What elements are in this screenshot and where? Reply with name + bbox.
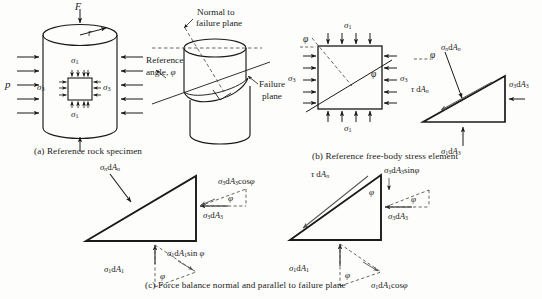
label-b-phi-inside: φ — [371, 70, 376, 80]
label-cr-tau-dAn: τ dAn — [311, 170, 329, 179]
label-axial-load-F: F — [75, 2, 81, 12]
panel-a-pressure-arrows-right — [121, 57, 143, 113]
label-cr-sigma1-dA1: σ1dA1 — [289, 264, 309, 273]
label-failure-plane-line2: plane — [262, 92, 282, 101]
label-cr-phi-bottom: φ — [345, 271, 350, 280]
label-a-sigma1-bottom: σ1 — [71, 110, 79, 119]
caption-a: (a) Reference rock specimen — [34, 146, 142, 156]
panel-b-triangle-arrows — [441, 52, 525, 146]
panel-c-left-dashed — [155, 189, 246, 287]
label-cl-sigma3-dA3: σ3dA3 — [203, 211, 223, 220]
label-b-sigma3-right: σ3 — [400, 74, 408, 83]
label-a-sigma3-left: σ3 — [37, 83, 45, 92]
figure-root: F r p σ1 σ1 σ3 σ3 Normal to failure plan… — [0, 0, 542, 299]
panel-a-cylinder — [43, 9, 117, 152]
panel-a-normal-line — [185, 28, 224, 92]
label-b-sigma3-left: σ3 — [288, 74, 296, 83]
label-cr-sigma1-dA1-cos: σ1dA1cosφ — [371, 281, 408, 290]
label-normal-to-failure-plane-line2: failure plane — [196, 19, 242, 28]
panel-c-right-dashed-arrowheads — [363, 178, 389, 271]
label-b-tri-sigma3-dA3: σ3dA3 — [509, 80, 529, 90]
panel-b-sigma1-bottom-arrows — [328, 111, 370, 122]
label-cl-sigma1-dA1: σ1dA1 — [104, 265, 124, 274]
label-cl-sigma1-dA1-sin: σ1dA1sin φ — [167, 249, 204, 258]
label-b-tri-phi: φ — [430, 51, 435, 61]
panel-c-left-triangle — [86, 176, 196, 241]
label-reference-angle-line1: Reference — [146, 56, 183, 65]
label-a-sigma3-right: σ3 — [103, 83, 111, 92]
label-cl-sigma-n-dAn: σndAn — [100, 163, 120, 172]
label-b-tri-tau-dAn: τ dAn — [411, 85, 429, 95]
panel-b-sigma3-right-arrows — [384, 56, 397, 103]
panel-c-right-triangle — [290, 175, 381, 240]
panel-a-element-arrows — [59, 70, 101, 108]
label-cr-phi-vertical: φ — [369, 188, 374, 197]
label-cr-sigma3-dA3: σ3dA3 — [388, 212, 408, 221]
label-cr-phi-right: φ — [411, 195, 416, 204]
label-b-phi-topleft: φ — [303, 35, 308, 45]
panel-b-sigma1-top-arrows — [328, 33, 370, 44]
label-a-sigma1-top: σ1 — [71, 56, 79, 65]
panel-a-failed-cylinder — [184, 39, 250, 144]
panel-a-stress-element — [68, 78, 92, 100]
label-b-sigma1-bottom: σ1 — [344, 124, 352, 133]
label-reference-angle-line2: angle, φ — [146, 68, 176, 77]
panel-b-triangle — [423, 76, 505, 122]
panel-c-right-dashed — [340, 190, 429, 286]
label-radius-r: r — [88, 29, 92, 39]
label-b-tri-sigma-n-dAn: σndAn — [441, 43, 461, 53]
label-cr-sigma3-dA3-sin: σ3dA3sinφ — [384, 166, 419, 175]
label-cl-phi-right: φ — [228, 194, 233, 203]
caption-c: (c) Force balance normal and parallel to… — [145, 280, 346, 290]
panel-b-failure-plane-diagonal — [306, 60, 392, 112]
panel-a-pressure-arrows-left — [17, 57, 39, 113]
label-cl-sigma3-dA3-cos: σ3dA3cosφ — [218, 177, 255, 186]
label-normal-to-failure-plane-line1: Normal to — [197, 8, 235, 17]
label-failure-plane-line1: Failure — [259, 80, 285, 89]
label-b-sigma1-top: σ1 — [344, 21, 352, 30]
panel-b-sigma3-left-arrows — [303, 56, 316, 103]
caption-b: (b) Reference free-body stress element — [312, 151, 458, 161]
label-confining-pressure-p: p — [5, 79, 11, 90]
